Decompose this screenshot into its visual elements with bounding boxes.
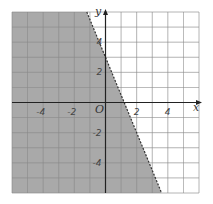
x-tick-label: -4 — [36, 107, 45, 117]
x-tick-label: 2 — [134, 107, 140, 117]
x-tick-label: -2 — [67, 107, 76, 117]
y-tick-label: -4 — [93, 158, 102, 168]
y-axis-label: y — [94, 5, 102, 18]
y-tick-label: 4 — [97, 37, 103, 47]
x-tick-label: 4 — [165, 107, 171, 117]
x-axis-label: x — [193, 101, 200, 114]
inequality-graph: -4-22442-2-4 x y O — [0, 0, 213, 204]
y-tick-label: 2 — [97, 67, 103, 77]
origin-label: O — [95, 103, 104, 116]
y-tick-label: -2 — [93, 128, 102, 138]
